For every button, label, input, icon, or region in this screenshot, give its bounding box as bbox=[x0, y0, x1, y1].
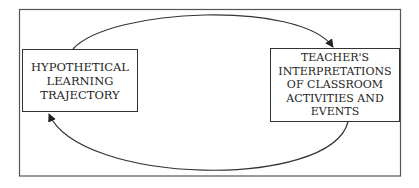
node-label-line: OF CLASSROOM bbox=[287, 78, 383, 92]
node-hypothetical-learning-trajectory: HYPOTHETICAL LEARNING TRAJECTORY bbox=[22, 49, 138, 112]
node-label-line: INTERPRETATIONS bbox=[278, 65, 391, 79]
arrow-bottom-arc bbox=[49, 114, 348, 170]
node-label-line: EVENTS bbox=[311, 105, 360, 119]
node-label-line: LEARNING bbox=[47, 74, 114, 88]
node-teacher-interpretations: TEACHER'S INTERPRETATIONS OF CLASSROOM A… bbox=[270, 48, 400, 122]
node-label-line: ACTIVITIES AND bbox=[286, 92, 383, 106]
arrow-top-arc bbox=[73, 15, 333, 49]
node-label-line: TRAJECTORY bbox=[40, 88, 119, 102]
node-label-line: HYPOTHETICAL bbox=[31, 60, 129, 74]
node-label-line: TEACHER'S bbox=[301, 51, 369, 65]
diagram-canvas: HYPOTHETICAL LEARNING TRAJECTORY TEACHER… bbox=[0, 0, 419, 188]
